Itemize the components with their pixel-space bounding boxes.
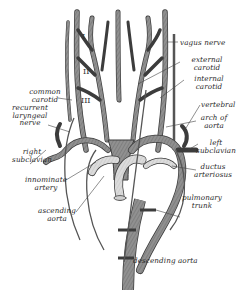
label-innominate-artery: innominate artery	[24, 176, 68, 191]
label-external-carotid: external carotid	[183, 56, 231, 71]
label-arch-of-aorta-line2: aorta	[194, 122, 234, 130]
label-vagus-nerve-text: vagus nerve	[180, 38, 225, 47]
label-vertebral-text: vertebral	[201, 100, 235, 109]
label-ductus-arteriosus-line2: arteriosus	[190, 171, 236, 179]
label-recurrent-laryngeal-nerve: recurrent laryngeal nerve	[10, 104, 50, 127]
label-internal-carotid: internal carotid	[185, 75, 233, 90]
arch-numeral-1: I	[82, 32, 85, 41]
label-descending-aorta-text: descending aorta	[133, 256, 198, 265]
label-pulmonary-trunk-line2: trunk	[180, 202, 224, 210]
label-arch-of-aorta: arch of aorta	[194, 114, 234, 129]
label-vagus-nerve: vagus nerve	[180, 39, 225, 47]
label-left-subclavian: left subclavian	[194, 139, 238, 154]
label-ascending-aorta-line2: aorta	[36, 215, 78, 223]
label-ductus-arteriosus: ductus arteriosus	[190, 163, 236, 178]
label-innominate-artery-line2: artery	[24, 184, 68, 192]
label-ascending-aorta: ascending aorta	[36, 207, 78, 222]
label-recurrent-laryngeal-line3: nerve	[10, 119, 50, 127]
arch-numeral-3: III	[81, 96, 90, 105]
right-arch	[46, 124, 108, 162]
label-right-subclavian-line2: subclavian	[10, 156, 54, 164]
label-internal-carotid-line2: carotid	[185, 83, 233, 91]
label-left-subclavian-line2: subclavian	[194, 147, 238, 155]
label-descending-aorta: descending aorta	[133, 257, 198, 265]
label-pulmonary-trunk: pulmonary trunk	[180, 194, 224, 209]
arch-numeral-2: II	[83, 67, 89, 76]
label-external-carotid-line2: carotid	[183, 64, 231, 72]
label-vertebral: vertebral	[201, 101, 235, 109]
label-common-carotid: common carotid	[26, 88, 64, 103]
label-right-subclavian: right subclavian	[10, 148, 54, 163]
